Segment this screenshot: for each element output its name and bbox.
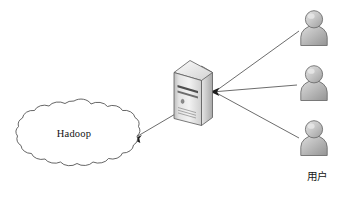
diagram-svg: [0, 0, 339, 200]
edge-server-to-hadoop: [138, 113, 178, 136]
user-head: [305, 11, 322, 28]
edge-user-3-to-server: [217, 93, 300, 138]
user-icon: [301, 136, 327, 156]
user-icon: [301, 81, 327, 101]
user-head-highlight: [308, 124, 315, 129]
diagram-canvas: Hadoop 用户: [0, 0, 339, 200]
hadoop-cloud-label: Hadoop: [38, 128, 110, 139]
server-power-button[interactable]: [181, 99, 184, 103]
edge-user-2-to-server: [217, 85, 298, 92]
user-icon-1[interactable]: [301, 11, 327, 46]
edge-user-1-to-server: [217, 31, 300, 91]
user-head: [305, 66, 322, 83]
user-icon-3[interactable]: [301, 121, 327, 156]
user-head-highlight: [308, 14, 315, 19]
user-head-highlight: [308, 69, 315, 74]
users-group-label: 用户: [296, 168, 338, 183]
edge-group-users-to-server: [210, 31, 299, 138]
user-icon: [301, 26, 327, 46]
server-front-face: [174, 73, 202, 126]
user-head: [305, 121, 322, 138]
user-icon-2[interactable]: [301, 66, 327, 101]
server-tower-node[interactable]: [174, 61, 213, 126]
